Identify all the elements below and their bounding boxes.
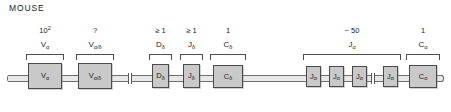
gene-segment-d-2: Dδ [152,64,169,88]
gene-segment-label: Jδ [188,72,195,80]
segment-count-v-α/δ-1: ? [76,27,114,35]
segment-count-j-δ-3: ≥ 1 [177,27,206,35]
gene-segment-j-6: Jα [329,66,344,87]
segment-bracket-v-α/δ-1 [76,54,114,60]
segment-family-label-v-α/δ-1: Vα/δ [76,41,114,49]
gene-segment-j-5: Jα [306,66,321,87]
tcr-locus-diagram: MOUSE 102Vα?Vα/δ≥ 1Dδ≥ 1Jδ1Cδ~ 50Jα1Cα V… [0,0,451,112]
gene-segment-c-4: Cδ [213,65,243,88]
segment-count-v-α-0: 102 [26,27,64,35]
gene-segment-j-8: Jα [383,66,398,87]
gene-segment-label: Jα [356,73,363,81]
segment-count-c-δ-4: 1 [210,27,246,35]
segment-bracket-c-α-6 [406,54,440,60]
segment-bracket-j-δ-3 [180,54,203,60]
segment-family-label-v-α-0: Vα [26,41,64,49]
gene-segment-label: Vα [41,72,49,80]
segment-family-label-c-α-6: Cα [406,41,440,49]
segment-family-label-c-δ-4: Cδ [210,41,246,49]
segment-count-c-α-6: 1 [406,27,440,35]
gene-segment-j-7: Jα [352,66,367,87]
gene-segment-label: Jα [387,73,394,81]
gene-segment-label: Dδ [156,72,164,80]
gene-segment-label: Cδ [224,73,232,81]
gene-segment-label: Jα [310,73,317,81]
dna-line-right-cap [439,75,444,82]
segment-bracket-d-δ-2 [149,54,172,60]
segment-count-j-α-5: ~ 50 [303,27,401,35]
dna-break-mark-1 [371,73,375,84]
segment-family-label-d-δ-2: Dδ [146,41,175,49]
gene-segment-v-0: Vα [28,63,62,89]
gene-segment-label: Cα [419,73,428,81]
segment-family-label-j-α-5: Jα [303,41,401,49]
gene-segment-v-1: Vα/δ [78,63,112,89]
segment-bracket-c-δ-4 [210,54,246,60]
gene-segment-j-3: Jδ [183,64,200,88]
segment-bracket-j-α-5 [303,54,401,60]
segment-bracket-v-α-0 [26,54,64,60]
segment-family-label-j-δ-3: Jδ [177,41,206,49]
gene-segment-c-9: Cα [409,65,437,88]
dna-break-mark-0 [128,73,132,84]
gene-segment-label: Vα/δ [89,72,102,80]
segment-count-d-δ-2: ≥ 1 [146,27,175,35]
page-title: MOUSE [9,3,45,13]
gene-segment-label: Jα [333,73,340,81]
